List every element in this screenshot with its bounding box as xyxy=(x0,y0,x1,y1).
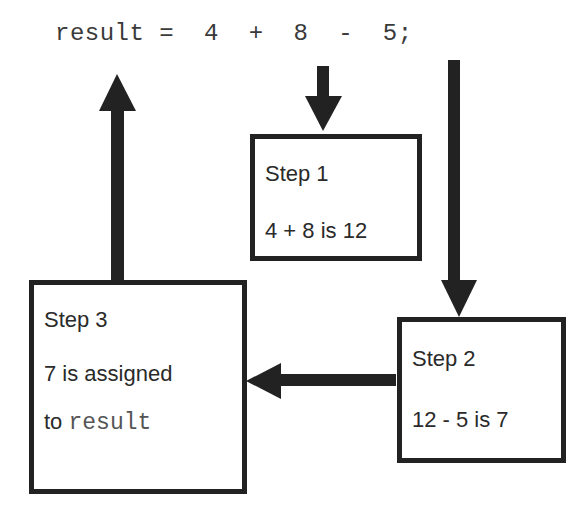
step3-code-word: result xyxy=(68,410,151,436)
step3-box: Step 3 7 is assigned to result xyxy=(29,280,247,494)
step2-title: Step 2 xyxy=(412,346,476,372)
step2-box: Step 2 12 - 5 is 7 xyxy=(397,317,566,463)
step1-box: Step 1 4 + 8 is 12 xyxy=(250,134,422,261)
step1-text: 4 + 8 is 12 xyxy=(265,218,367,244)
step2-text: 12 - 5 is 7 xyxy=(412,407,509,433)
arrow-down-to-step1 xyxy=(305,66,342,131)
step3-text-line2: to result xyxy=(44,409,151,436)
step1-title: Step 1 xyxy=(265,161,329,187)
arrow-down-to-step2 xyxy=(441,60,477,317)
step3-to-label: to xyxy=(44,409,68,434)
step3-title: Step 3 xyxy=(44,307,108,333)
arrow-up-to-result xyxy=(99,74,136,283)
arrow-left-to-step3 xyxy=(246,363,396,399)
step3-text-line1: 7 is assigned xyxy=(44,361,172,387)
